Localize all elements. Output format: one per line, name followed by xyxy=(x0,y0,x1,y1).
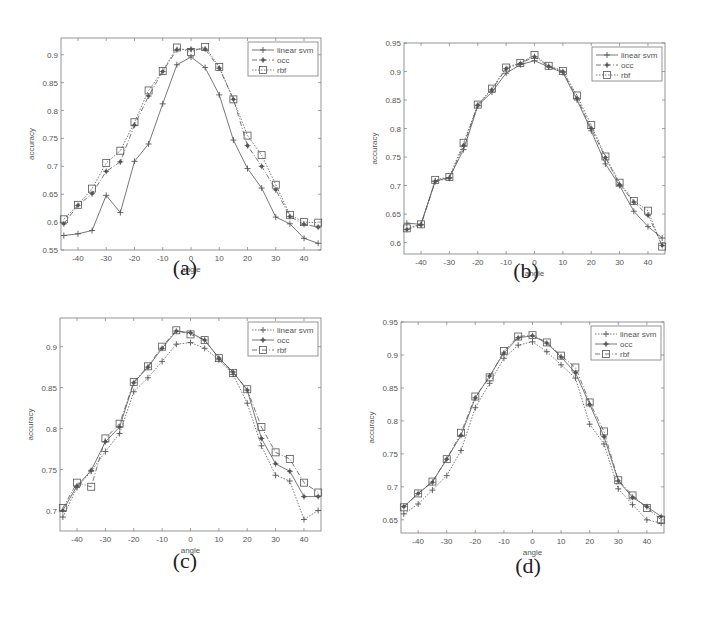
chart-svg: -40-30-20-100102030400.550.60.650.70.750… xyxy=(21,28,331,280)
x-tick-label: -40 xyxy=(415,258,427,267)
legend-entry: rbf xyxy=(277,346,287,355)
legend-entry: occ xyxy=(620,340,632,349)
y-tick-label: 0.7 xyxy=(390,182,402,191)
y-tick-label: 0.65 xyxy=(42,190,58,199)
series-occ xyxy=(401,333,664,520)
x-tick-label: 0 xyxy=(530,537,535,546)
y-axis-label: accuracy xyxy=(370,132,379,164)
x-tick-label: -30 xyxy=(444,258,456,267)
y-tick-label: 0.8 xyxy=(46,425,58,434)
subplot-b: -40-30-20-100102030400.60.650.70.750.80.… xyxy=(364,33,675,284)
x-tick-label: 20 xyxy=(243,254,252,263)
legend-entry: rbf xyxy=(277,66,287,75)
x-tick-label: -20 xyxy=(472,258,484,267)
legend: linear svmoccrbf xyxy=(248,42,318,76)
x-tick-label: -20 xyxy=(470,537,482,546)
x-tick-label: -30 xyxy=(100,254,112,263)
y-tick-label: 0.75 xyxy=(382,450,398,459)
y-axis-label: accuracy xyxy=(27,128,36,160)
y-tick-label: 0.85 xyxy=(382,384,398,393)
subplot-a: -40-30-20-100102030400.550.60.650.70.750… xyxy=(21,28,331,280)
subplot-c: -40-30-20-100102030400.70.750.80.850.9an… xyxy=(20,308,331,561)
x-tick-label: 40 xyxy=(644,258,653,267)
y-tick-label: 0.85 xyxy=(42,79,58,88)
y-tick-label: 0.65 xyxy=(382,516,398,525)
x-tick-label: -20 xyxy=(128,535,140,544)
y-tick-label: 0.7 xyxy=(46,507,58,516)
y-tick-label: 0.7 xyxy=(387,483,399,492)
chart-svg: -40-30-20-100102030400.70.750.80.850.9an… xyxy=(20,308,331,561)
x-tick-label: -20 xyxy=(129,254,141,263)
x-tick-label: 30 xyxy=(614,537,623,546)
x-tick-label: 10 xyxy=(558,258,567,267)
x-tick-label: 0 xyxy=(188,535,193,544)
series-linear-svm xyxy=(404,58,665,241)
series-linear-svm xyxy=(401,339,664,526)
x-tick-label: -40 xyxy=(412,537,424,546)
caption-d: (d) xyxy=(498,553,558,579)
y-tick-label: 0.9 xyxy=(46,343,58,352)
subplot-d: -40-30-20-100102030400.650.70.750.80.850… xyxy=(361,312,674,563)
y-tick-label: 0.6 xyxy=(390,239,402,248)
y-tick-label: 0.55 xyxy=(42,246,58,255)
y-tick-label: 0.8 xyxy=(387,417,399,426)
y-tick-label: 0.9 xyxy=(390,68,402,77)
y-tick-label: 0.95 xyxy=(385,39,401,48)
series-rbf xyxy=(400,332,664,524)
chart-svg: -40-30-20-100102030400.650.70.750.80.850… xyxy=(361,312,674,563)
x-tick-label: 40 xyxy=(300,254,309,263)
x-tick-label: 10 xyxy=(557,537,566,546)
series-occ xyxy=(404,54,665,249)
y-tick-label: 0.85 xyxy=(41,384,57,393)
legend: linear svmoccrbf xyxy=(592,47,662,81)
y-tick-label: 0.75 xyxy=(41,466,57,475)
x-tick-label: 20 xyxy=(585,537,594,546)
y-tick-label: 0.95 xyxy=(382,318,398,327)
y-tick-label: 0.9 xyxy=(387,351,399,360)
legend: linear svmoccrbf xyxy=(248,322,318,356)
caption-a: (a) xyxy=(155,255,215,281)
x-tick-label: 10 xyxy=(214,535,223,544)
x-tick-label: 40 xyxy=(300,535,309,544)
x-tick-label: 30 xyxy=(271,254,280,263)
legend: linear svmoccrbf xyxy=(591,326,661,360)
y-tick-label: 0.9 xyxy=(47,51,59,60)
y-tick-label: 0.65 xyxy=(385,210,401,219)
caption-b: (b) xyxy=(496,258,556,284)
legend-entry: linear svm xyxy=(277,46,314,55)
y-axis-label: accuracy xyxy=(367,411,376,443)
y-tick-label: 0.7 xyxy=(47,162,59,171)
caption-c: (c) xyxy=(155,548,215,574)
x-tick-label: -10 xyxy=(498,537,510,546)
x-tick-label: -10 xyxy=(156,535,168,544)
y-tick-label: 0.75 xyxy=(385,153,401,162)
series-linear-svm xyxy=(60,340,321,523)
x-tick-label: -40 xyxy=(71,535,83,544)
y-tick-label: 0.8 xyxy=(390,125,402,134)
x-tick-label: 20 xyxy=(587,258,596,267)
x-tick-label: -30 xyxy=(100,535,112,544)
legend-entry: rbf xyxy=(621,71,631,80)
y-tick-label: 0.8 xyxy=(47,107,59,116)
series-linear-svm xyxy=(61,54,321,246)
legend-entry: occ xyxy=(621,61,633,70)
y-tick-label: 0.85 xyxy=(385,96,401,105)
legend-entry: linear svm xyxy=(277,326,314,335)
y-tick-label: 0.75 xyxy=(42,134,58,143)
x-tick-label: 10 xyxy=(215,254,224,263)
x-tick-label: 20 xyxy=(243,535,252,544)
x-tick-label: -40 xyxy=(72,254,84,263)
legend-entry: linear svm xyxy=(621,51,658,60)
chart-svg: -40-30-20-100102030400.60.650.70.750.80.… xyxy=(364,33,675,284)
legend-entry: occ xyxy=(277,336,289,345)
x-tick-label: -30 xyxy=(441,537,453,546)
x-tick-label: 30 xyxy=(271,535,280,544)
legend-entry: linear svm xyxy=(620,330,657,339)
y-axis-label: accuracy xyxy=(26,408,35,440)
x-tick-label: 30 xyxy=(615,258,624,267)
y-tick-label: 0.6 xyxy=(47,218,59,227)
legend-entry: occ xyxy=(277,56,289,65)
x-tick-label: 40 xyxy=(642,537,651,546)
legend-entry: rbf xyxy=(620,350,630,359)
